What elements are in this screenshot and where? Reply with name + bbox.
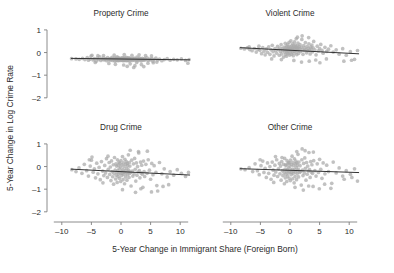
data-point bbox=[325, 163, 329, 167]
data-point bbox=[342, 59, 346, 63]
data-point bbox=[308, 176, 312, 180]
scatter-plot-matrix-figure: 10–1–210–1–2–10–50510–10–50510 Property … bbox=[0, 0, 394, 273]
data-point bbox=[100, 160, 104, 164]
data-point bbox=[150, 190, 154, 194]
data-point bbox=[108, 165, 112, 169]
data-point bbox=[87, 174, 91, 178]
data-point bbox=[320, 176, 324, 180]
data-point bbox=[300, 34, 304, 38]
x-tick-label: 0 bbox=[288, 227, 293, 236]
data-point bbox=[253, 162, 257, 166]
data-point bbox=[135, 173, 139, 177]
data-point bbox=[101, 181, 105, 185]
data-point bbox=[267, 45, 271, 49]
x-tick-label: –10 bbox=[224, 227, 238, 236]
data-point bbox=[135, 61, 139, 65]
data-point bbox=[319, 167, 323, 171]
data-point bbox=[266, 161, 270, 165]
data-point bbox=[125, 65, 129, 69]
data-point bbox=[150, 54, 154, 58]
data-point bbox=[329, 186, 333, 190]
data-point bbox=[90, 155, 94, 159]
x-tick-label: 10 bbox=[345, 227, 354, 236]
data-point bbox=[144, 162, 148, 166]
y-axis-title: 5-Year Change in Log Crime Rate bbox=[5, 65, 15, 191]
data-point bbox=[318, 157, 322, 161]
data-point bbox=[297, 160, 301, 164]
data-point bbox=[251, 170, 255, 174]
data-point bbox=[315, 162, 319, 166]
data-point bbox=[187, 171, 191, 175]
data-point bbox=[280, 156, 284, 160]
data-point bbox=[264, 176, 268, 180]
data-point bbox=[128, 148, 132, 152]
data-point bbox=[107, 62, 111, 66]
data-point bbox=[137, 53, 141, 57]
data-point bbox=[113, 156, 117, 160]
data-point bbox=[311, 185, 315, 189]
data-point bbox=[140, 163, 144, 167]
y-tick-label: –1 bbox=[32, 185, 41, 194]
data-point bbox=[94, 176, 98, 180]
data-point bbox=[109, 179, 113, 183]
data-point bbox=[149, 177, 153, 181]
data-point bbox=[314, 53, 318, 57]
data-point bbox=[142, 159, 146, 163]
data-point bbox=[272, 54, 276, 58]
data-point bbox=[103, 164, 107, 168]
data-point bbox=[350, 176, 354, 180]
data-point bbox=[106, 176, 110, 180]
data-point bbox=[134, 191, 138, 195]
panel-title: Property Crime bbox=[93, 9, 148, 18]
data-point bbox=[128, 164, 132, 168]
x-tick-label: 5 bbox=[317, 227, 322, 236]
data-point bbox=[259, 164, 263, 168]
data-point bbox=[296, 35, 300, 39]
data-point bbox=[350, 58, 354, 62]
data-point bbox=[267, 171, 271, 175]
data-point bbox=[186, 61, 190, 65]
chart-canvas: 10–1–210–1–2–10–50510–10–50510 Property … bbox=[0, 0, 394, 273]
data-point bbox=[88, 164, 92, 168]
data-point bbox=[323, 172, 327, 176]
data-point bbox=[135, 161, 139, 165]
data-point bbox=[274, 170, 278, 174]
data-point bbox=[168, 170, 172, 174]
data-point bbox=[112, 53, 116, 57]
data-point bbox=[303, 156, 307, 160]
data-point bbox=[268, 53, 272, 57]
data-point bbox=[151, 61, 155, 65]
data-point bbox=[87, 158, 91, 162]
data-point bbox=[257, 173, 261, 177]
data-point bbox=[307, 59, 311, 63]
y-tick-label: –2 bbox=[32, 94, 41, 103]
data-point bbox=[144, 54, 148, 58]
data-point bbox=[132, 66, 136, 70]
data-point bbox=[356, 49, 360, 53]
panel-title: Drug Crime bbox=[100, 123, 142, 132]
x-tick-label: –10 bbox=[55, 227, 69, 236]
data-point bbox=[292, 181, 296, 185]
data-point bbox=[272, 173, 276, 177]
data-point bbox=[305, 172, 309, 176]
data-point bbox=[122, 53, 126, 57]
data-point bbox=[128, 62, 132, 66]
data-point bbox=[306, 164, 310, 168]
data-point bbox=[158, 161, 162, 165]
data-point bbox=[123, 182, 127, 186]
x-axis-title: 5-Year Change in Immigrant Share (Foreig… bbox=[112, 244, 298, 254]
data-point bbox=[297, 175, 301, 179]
data-point bbox=[108, 173, 112, 177]
data-point bbox=[258, 158, 262, 162]
data-point bbox=[111, 175, 115, 179]
data-point bbox=[98, 178, 102, 182]
data-point bbox=[293, 40, 297, 44]
data-point bbox=[305, 161, 309, 165]
data-point bbox=[275, 158, 279, 162]
data-point bbox=[337, 166, 341, 170]
data-point bbox=[93, 61, 97, 65]
data-point bbox=[112, 182, 116, 186]
data-point bbox=[143, 175, 147, 179]
data-point bbox=[325, 57, 329, 61]
data-point bbox=[318, 61, 322, 65]
